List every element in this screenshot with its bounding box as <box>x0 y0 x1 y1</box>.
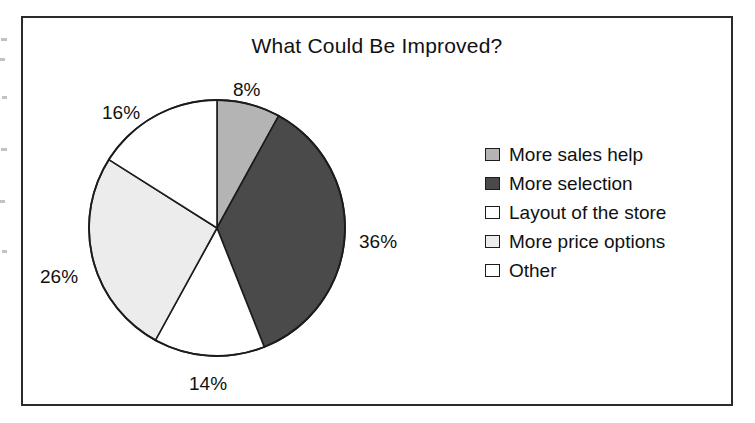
legend-item-label: More sales help <box>509 145 643 164</box>
legend-swatch-icon <box>485 148 500 161</box>
legend-item-more-selection[interactable]: More selection <box>485 169 725 198</box>
legend-swatch-icon <box>485 235 500 248</box>
legend-item-label: Other <box>509 261 557 280</box>
legend-item-more-price-options[interactable]: More price options <box>485 227 725 256</box>
legend-item-more-sales-help[interactable]: More sales help <box>485 140 725 169</box>
legend-swatch-icon <box>485 264 500 277</box>
scan-speckle <box>0 58 5 61</box>
pie-label-more-sales-help: 8% <box>233 79 260 101</box>
legend-item-label: More selection <box>509 174 633 193</box>
plot-area: 8% 36% 14% 26% 16% More sales help More … <box>23 18 735 408</box>
scan-speckle <box>2 250 7 253</box>
pie-label-other: 16% <box>102 102 140 124</box>
scan-speckle <box>2 96 7 99</box>
pie-label-layout-of-the-store: 14% <box>189 373 227 395</box>
pie-chart <box>79 90 355 366</box>
chart-legend: More sales help More selection Layout of… <box>485 140 725 285</box>
pie-label-more-selection: 36% <box>359 231 397 253</box>
legend-item-label: Layout of the store <box>509 203 666 222</box>
legend-item-other[interactable]: Other <box>485 256 725 285</box>
scan-speckle <box>1 148 7 151</box>
legend-swatch-icon <box>485 177 500 190</box>
scan-speckle <box>0 200 5 203</box>
pie-label-more-price-options: 26% <box>40 266 78 288</box>
legend-item-label: More price options <box>509 232 665 251</box>
chart-frame: What Could Be Improved? 8% 36% 14% 26% 1… <box>21 16 733 406</box>
scan-speckle <box>1 38 7 41</box>
legend-swatch-icon <box>485 206 500 219</box>
legend-item-layout-of-the-store[interactable]: Layout of the store <box>485 198 725 227</box>
